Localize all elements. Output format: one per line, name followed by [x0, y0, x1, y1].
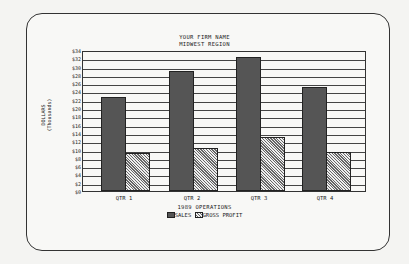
y-tick-label: $32 — [72, 56, 81, 62]
gridline — [83, 69, 365, 70]
y-tick-label: $14 — [72, 131, 81, 137]
chart-subtitle: MIDWEST REGION — [0, 41, 409, 47]
x-tick-label: QTR 1 — [104, 195, 144, 201]
legend-swatch-gross-profit — [195, 212, 203, 218]
x-tick-label: QTR 4 — [305, 195, 345, 201]
y-tick-label: $8 — [75, 156, 81, 162]
bar-sales — [302, 87, 327, 191]
x-tick-label: QTR 3 — [239, 195, 279, 201]
y-tick-label: $2 — [75, 181, 81, 187]
x-tick-label: QTR 2 — [172, 195, 212, 201]
y-tick-label: $34 — [72, 48, 81, 54]
gridline — [83, 77, 365, 78]
gridline — [83, 60, 365, 61]
chart-title: YOUR FIRM NAME — [0, 34, 409, 40]
bar-sales — [236, 57, 261, 191]
bar-sales — [169, 71, 194, 191]
legend-swatch-sales — [167, 212, 175, 218]
y-axis-label: DOLLARS (Thousands) — [40, 95, 52, 135]
y-tick-label: $4 — [75, 172, 81, 178]
y-tick-label: $26 — [72, 81, 81, 87]
y-tick-label: $10 — [72, 148, 81, 154]
y-tick-label: $30 — [72, 65, 81, 71]
y-tick-label: $18 — [72, 114, 81, 120]
y-tick-label: $28 — [72, 73, 81, 79]
plot-area — [82, 51, 366, 192]
bar-sales — [101, 97, 126, 191]
bar-gross-profit — [193, 148, 218, 191]
bar-gross-profit — [125, 153, 150, 191]
x-axis-title: 1989 OPERATIONS — [0, 204, 409, 210]
y-tick-label: $20 — [72, 106, 81, 112]
bar-gross-profit — [260, 137, 285, 191]
legend-label-sales: SALES — [175, 212, 192, 218]
y-tick-label: $22 — [72, 98, 81, 104]
bar-gross-profit — [326, 152, 351, 191]
y-tick-label: $12 — [72, 139, 81, 145]
y-axis-subtitle: (Thousands) — [46, 95, 52, 135]
y-tick-label: $16 — [72, 123, 81, 129]
y-tick-label: $0 — [75, 189, 81, 195]
y-tick-label: $24 — [72, 89, 81, 95]
legend: SALES GROSS PROFIT — [0, 212, 409, 218]
y-tick-label: $6 — [75, 164, 81, 170]
legend-label-gross-profit: GROSS PROFIT — [203, 212, 243, 218]
